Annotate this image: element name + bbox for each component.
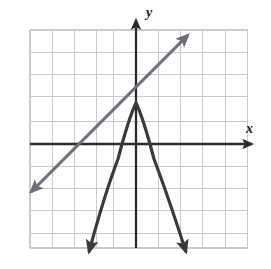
x-axis-label: x <box>246 122 253 136</box>
graph-canvas <box>0 0 271 269</box>
parabola-graph-curve <box>89 103 186 252</box>
line-graph-curve <box>31 35 188 192</box>
y-axis-label: y <box>146 6 152 20</box>
grid-lines <box>30 30 248 248</box>
coordinate-plane-figure: y x <box>0 0 271 269</box>
